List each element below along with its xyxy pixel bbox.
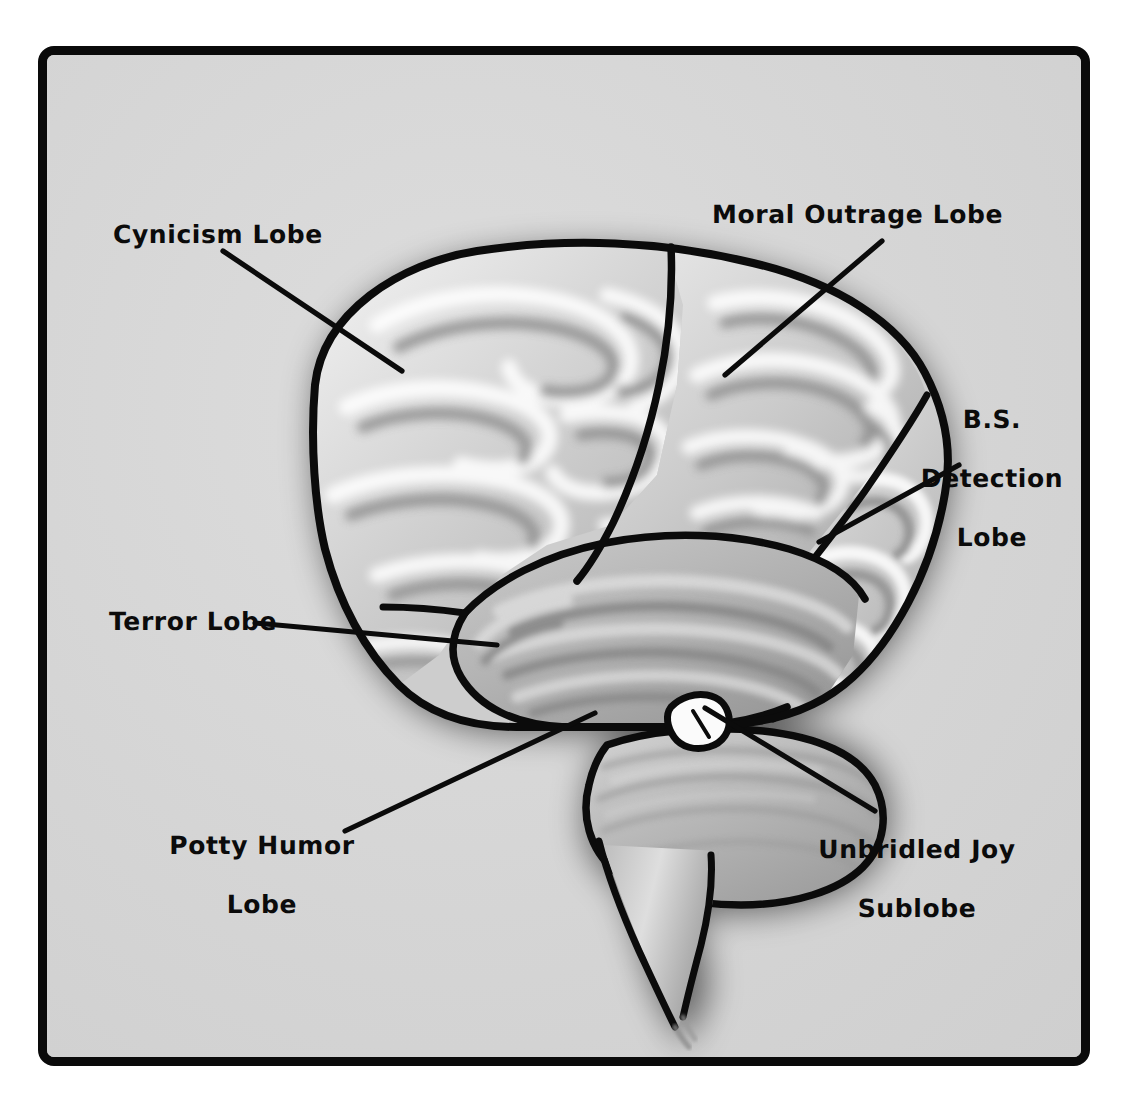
region-brainstem (599, 841, 719, 1047)
region-unbridled-joy-sublobe (667, 695, 729, 749)
label-terror-lobe: Terror Lobe (109, 607, 329, 637)
leader-line-potty-humor (345, 713, 595, 831)
label-bs-detection-lobe: B.S. Detection Lobe (902, 375, 1082, 552)
label-bs-line-1: B.S. (963, 405, 1021, 434)
label-potty-humor-lobe: Potty Humor Lobe (147, 801, 377, 919)
label-joy-line-2: Sublobe (858, 894, 977, 923)
diagram-frame: Cynicism Lobe Moral Outrage Lobe B.S. De… (38, 46, 1090, 1066)
label-unbridled-joy-sublobe: Unbridled Joy Sublobe (792, 805, 1042, 923)
label-bs-line-3: Lobe (957, 523, 1027, 552)
label-cynicism-lobe: Cynicism Lobe (113, 220, 373, 250)
label-bs-line-2: Detection (921, 464, 1063, 493)
label-potty-line-2: Lobe (227, 890, 297, 919)
artwork-layer: Cynicism Lobe Moral Outrage Lobe B.S. De… (47, 55, 1081, 1057)
label-joy-line-1: Unbridled Joy (818, 835, 1016, 864)
label-potty-line-1: Potty Humor (169, 831, 354, 860)
region-cerebrum (313, 243, 948, 727)
label-moral-outrage-lobe: Moral Outrage Lobe (712, 200, 1052, 230)
figure-canvas: Cynicism Lobe Moral Outrage Lobe B.S. De… (0, 0, 1127, 1097)
